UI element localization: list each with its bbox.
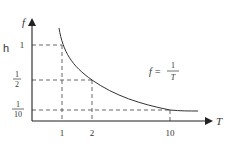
y-tick-tenth-numerator: 1 — [16, 100, 20, 109]
reciprocal-chart: f T h 1 2 10 1 1 2 1 10 f = 1 T — [0, 0, 231, 147]
x-tick-1: 1 — [60, 128, 65, 138]
y-tick-half-numerator: 1 — [15, 70, 19, 79]
guide-lines — [32, 45, 170, 121]
y-tick-tenth-denominator: 10 — [14, 110, 22, 119]
y-tick-1: 1 — [20, 40, 25, 50]
equation-lhs: f = — [149, 66, 161, 77]
x-axis-label: T — [216, 115, 223, 127]
curve-reciprocal — [59, 28, 198, 111]
equation-numerator: 1 — [171, 61, 175, 70]
equation-denominator: T — [171, 73, 176, 82]
y-axis-label: f — [22, 16, 27, 28]
y-tick-half: 1 2 — [13, 70, 21, 89]
x-tick-10: 10 — [166, 128, 176, 138]
equation-label: f = 1 T — [149, 61, 179, 82]
side-label-h: h — [3, 42, 9, 54]
y-tick-half-denominator: 2 — [15, 80, 19, 89]
y-tick-tenth: 1 10 — [12, 100, 24, 119]
x-tick-2: 2 — [90, 128, 95, 138]
